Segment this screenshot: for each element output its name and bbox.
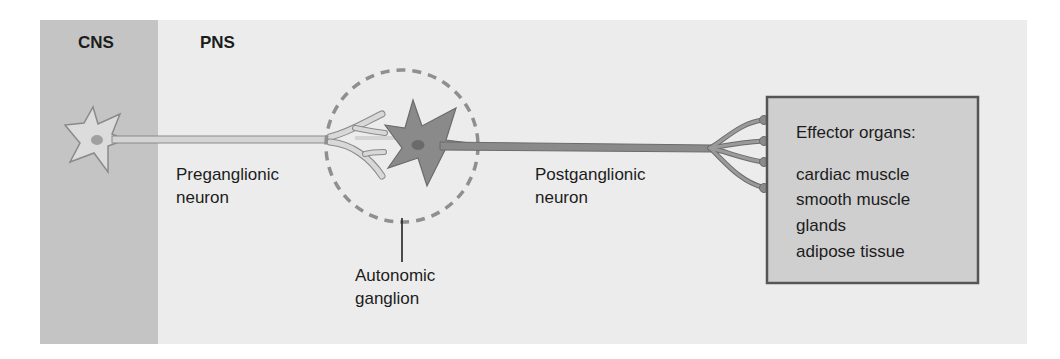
ganglion-label-line2: ganglion — [355, 289, 419, 308]
cns-region — [40, 20, 158, 344]
effector-item: glands — [796, 216, 846, 235]
preganglionic-label-line1: Preganglionic — [176, 165, 280, 184]
effector-item: cardiac muscle — [796, 165, 909, 184]
preganglionic-nucleus — [91, 135, 103, 145]
effector-item: smooth muscle — [796, 190, 910, 209]
cns-label: CNS — [78, 33, 114, 52]
effector-item: adipose tissue — [796, 242, 905, 261]
postganglionic-label-line2: neuron — [535, 188, 588, 207]
autonomic-pathway-diagram: CNS PNS — [0, 0, 1060, 359]
postganglionic-label-line1: Postganglionic — [535, 165, 646, 184]
pns-label: PNS — [200, 33, 235, 52]
effector-title: Effector organs: — [796, 123, 916, 142]
preganglionic-label-line2: neuron — [176, 188, 229, 207]
preganglionic-label: Preganglionic — [176, 165, 280, 184]
ganglion-label-line1: Autonomic — [355, 266, 436, 285]
postganglionic-nucleus — [412, 140, 425, 150]
